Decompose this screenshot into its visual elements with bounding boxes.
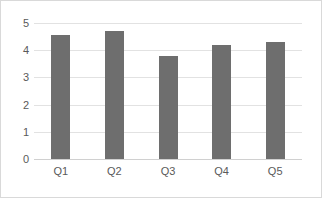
x-tick-label: Q3 bbox=[138, 164, 198, 179]
axis-baseline bbox=[34, 159, 302, 160]
x-tick-label: Q5 bbox=[245, 164, 305, 179]
bar bbox=[266, 42, 285, 159]
bar bbox=[51, 35, 70, 159]
x-axis: Q1Q2Q3Q4Q5 bbox=[34, 164, 302, 182]
y-tick-label: 0 bbox=[3, 154, 29, 165]
y-tick-label: 3 bbox=[3, 72, 29, 83]
y-axis: 012345 bbox=[1, 23, 29, 159]
y-tick-label: 5 bbox=[3, 18, 29, 29]
y-tick-label: 1 bbox=[3, 126, 29, 137]
y-tick-label: 4 bbox=[3, 45, 29, 56]
bar bbox=[105, 31, 124, 159]
bar bbox=[159, 56, 178, 159]
plot-area bbox=[34, 23, 302, 159]
bar bbox=[212, 45, 231, 159]
y-tick-label: 2 bbox=[3, 99, 29, 110]
bars-group bbox=[34, 23, 302, 159]
x-tick-label: Q2 bbox=[84, 164, 144, 179]
x-tick-label: Q1 bbox=[31, 164, 91, 179]
x-tick-label: Q4 bbox=[192, 164, 252, 179]
bar-chart: 012345 Q1Q2Q3Q4Q5 bbox=[0, 0, 322, 198]
